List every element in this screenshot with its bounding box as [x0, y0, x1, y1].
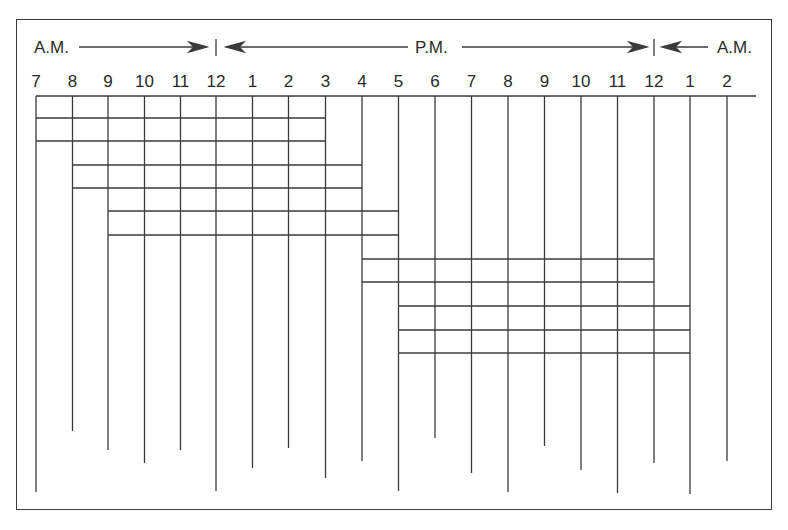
am-arrow-icon [79, 42, 207, 52]
pm-left-arrow-icon [226, 42, 408, 52]
pm-right-arrow-icon [462, 42, 647, 52]
schedule-grid [0, 0, 788, 530]
am-end-arrow-icon [662, 42, 708, 52]
shift-schedule-diagram: A.M. P.M. A.M. 7891011121234567891011121… [0, 0, 788, 530]
